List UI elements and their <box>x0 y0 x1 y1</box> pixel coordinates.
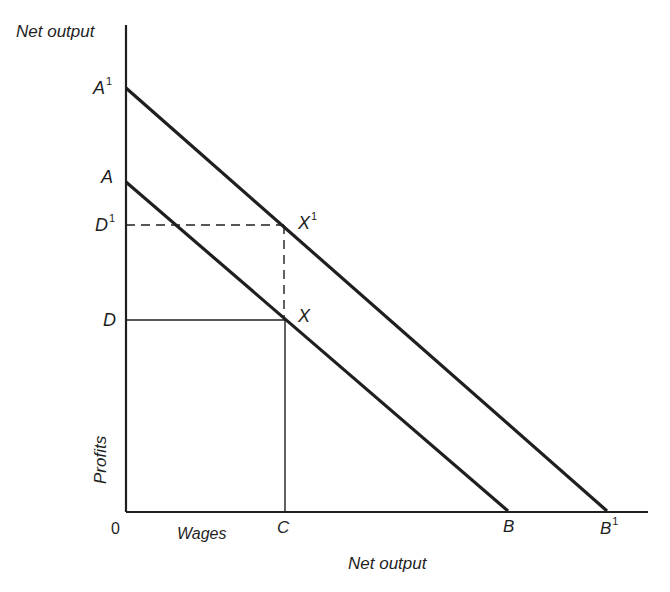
profits-label: Profits <box>92 436 109 484</box>
point-label-c: C <box>277 519 289 536</box>
point-label-a: A <box>101 168 113 186</box>
point-label-d1: D1 <box>95 215 115 234</box>
point-label-b: B <box>503 518 514 535</box>
point-label-x: X <box>298 307 310 325</box>
x-axis-title: Net output <box>348 555 426 572</box>
point-label-a1: A1 <box>93 78 112 97</box>
wages-label: Wages <box>177 526 227 542</box>
y-axis-title: Net output <box>16 23 94 40</box>
point-label-b1: B1 <box>600 518 618 537</box>
point-label-x1: X1 <box>298 213 317 232</box>
line-a1-b1 <box>126 88 607 511</box>
point-label-d: D <box>103 311 116 329</box>
origin-label: 0 <box>111 521 120 537</box>
net-output-distribution-diagram: Net output Profits Net output Wages 0 A1… <box>0 0 670 592</box>
